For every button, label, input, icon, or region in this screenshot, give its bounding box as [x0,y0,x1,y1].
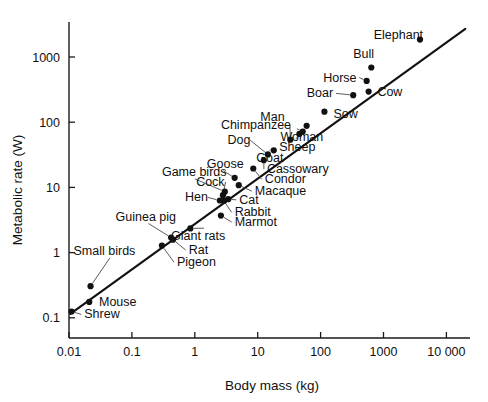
leader-line [92,258,109,283]
data-point [218,212,224,218]
y-tick-label: 10 [46,181,60,195]
chart-canvas: 0.010.1110100100010 0000.11101001000 Shr… [0,0,488,402]
data-point [232,175,238,181]
x-tick-label: 0.01 [57,345,81,359]
y-tick-label: 1000 [32,51,60,65]
leader-line [336,93,350,94]
data-point-label: Elephant [374,28,424,42]
data-point-label: Shrew [84,307,120,321]
data-point-labels: ShrewMouseSmall birdsPigeonGuinea pigRat… [74,28,424,322]
data-point [69,308,75,314]
data-point-label: Guinea pig [116,210,177,224]
data-point [217,197,223,203]
leader-line [164,248,174,262]
data-point [86,299,92,305]
leader-line [208,197,217,199]
data-point-label: Giant rats [171,229,225,243]
data-point-label: Cow [377,85,403,99]
data-point-label: Woman [280,130,323,144]
y-tick-label: 100 [39,116,60,130]
x-axis-title: Body mass (kg) [225,378,319,393]
data-point [87,283,93,289]
x-tick-label: 10 [251,345,265,359]
metabolic-rate-scatter-chart: 0.010.1110100100010 0000.11101001000 Shr… [0,0,488,402]
x-tick-label: 10 000 [427,345,465,359]
x-tick-label: 1 [191,345,198,359]
data-point [222,189,228,195]
data-point-label: Sow [333,107,358,121]
data-point [304,123,310,129]
y-axis-title: Metabolic rate (W) [10,135,25,245]
data-point-label: Dog [227,133,250,147]
leader-line [149,224,169,236]
data-points [69,36,424,314]
data-point [368,64,374,70]
data-point-label: Mouse [99,295,137,309]
data-point-label: Bull [353,47,374,61]
data-point [225,196,231,202]
data-point [366,88,372,94]
data-point-label: Hen [185,190,208,204]
data-point [350,92,356,98]
data-point-label: Goose [207,157,244,171]
data-point-label: Pigeon [177,255,216,269]
data-point-label: Rat [189,243,209,257]
data-point-label: Small birds [74,244,136,258]
data-point [236,182,242,188]
x-tick-label: 1000 [370,345,398,359]
data-point-label: Horse [323,71,356,85]
x-tick-label: 100 [310,345,331,359]
y-tick-label: 0.1 [43,311,60,325]
data-point [364,78,370,84]
data-point [321,109,327,115]
y-tick-label: 1 [53,246,60,260]
data-point [250,165,256,171]
x-tick-label: 0.1 [123,345,140,359]
data-point-label: Man [260,110,284,124]
data-point-label: Boar [307,86,333,100]
leader-line [224,217,232,222]
leader-line [359,78,363,80]
data-point [159,243,165,249]
leader-line [226,204,232,213]
data-point-label: Rabbit [235,205,272,219]
leader-line [75,312,81,314]
